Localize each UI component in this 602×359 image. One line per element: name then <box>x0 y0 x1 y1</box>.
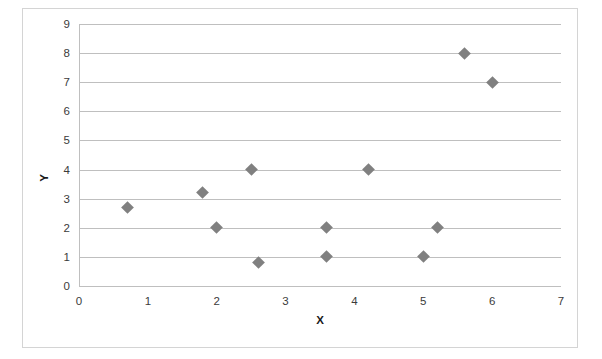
y-tick-label: 0 <box>64 280 70 292</box>
data-point-marker <box>252 256 265 269</box>
y-axis-line <box>79 24 80 286</box>
x-axis-title: X <box>79 314 561 326</box>
chart-frame: Y 0123456789 01234567 X <box>22 8 578 348</box>
data-point-marker <box>121 201 134 214</box>
gridline <box>79 286 561 287</box>
data-point-marker <box>458 47 471 60</box>
data-point-marker <box>431 221 444 234</box>
gridline <box>79 170 561 171</box>
gridline <box>79 24 561 25</box>
gridline <box>79 140 561 141</box>
x-tick-label: 6 <box>489 295 495 307</box>
y-tick-label: 6 <box>64 105 70 117</box>
x-tick-label: 0 <box>76 295 82 307</box>
x-tick-label: 4 <box>351 295 357 307</box>
y-tick-label: 3 <box>64 193 70 205</box>
data-point-marker <box>321 221 334 234</box>
y-tick-label: 8 <box>64 47 70 59</box>
y-tick-label: 9 <box>64 18 70 30</box>
y-tick-label: 4 <box>64 164 70 176</box>
data-point-marker <box>321 251 334 264</box>
y-tick-label: 1 <box>64 251 70 263</box>
data-point-marker <box>362 163 375 176</box>
x-tick-label: 5 <box>420 295 426 307</box>
x-tick-label: 3 <box>282 295 288 307</box>
x-tick-label: 2 <box>214 295 220 307</box>
data-point-marker <box>245 163 258 176</box>
x-tick-label: 1 <box>145 295 151 307</box>
data-point-marker <box>417 251 430 264</box>
data-point-marker <box>486 76 499 89</box>
y-tick-label: 7 <box>64 76 70 88</box>
plot-area: 0123456789 01234567 <box>79 24 561 286</box>
y-tick-label: 5 <box>64 134 70 146</box>
y-tick-label: 2 <box>64 222 70 234</box>
gridline <box>79 111 561 112</box>
y-axis-title: Y <box>38 174 50 182</box>
x-tick-label: 7 <box>558 295 564 307</box>
gridline <box>79 199 561 200</box>
gridline <box>79 53 561 54</box>
data-point-marker <box>210 221 223 234</box>
data-point-marker <box>197 186 210 199</box>
